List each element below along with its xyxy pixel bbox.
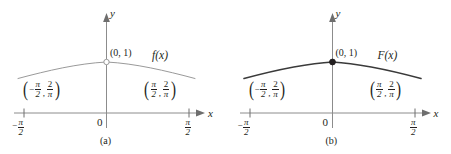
paren-open: ( [369,82,374,97]
y-axis-label: y [336,8,341,19]
tick-label-right: π 2 [184,118,192,137]
x-axis-arrowhead [422,110,431,117]
annotation-right-endpoint: ( π 2 , 2 π ) [143,80,177,99]
annot-right-comma: , [158,88,163,99]
figure-container: y x 0 (0, 1) f(x) − π 2 π 2 ( − [0,0,451,154]
annot-left-comma: , [42,88,47,99]
tick-label-left: − π 2 [12,118,25,137]
annot-left-y-den: π [272,89,279,99]
x-axis-label: x [434,108,439,119]
paren-close: ) [396,82,401,97]
x-axis-arrowhead [196,110,205,117]
y-axis-arrowhead [329,13,336,22]
paren-open: ( [144,82,149,97]
panel-caption-a: (a) [100,136,111,146]
y-axis-arrowhead [103,13,110,22]
curve-label-F: F(x) [378,50,398,62]
annot-right-comma: , [383,88,388,99]
tick-right-numerator: π [185,118,192,127]
tick-left-fraction: π 2 [243,118,250,137]
paren-open: ( [23,82,28,97]
annot-left-x-fraction: π 2 [35,80,42,99]
panel-b: y x 0 (0, 1) F(x) − π 2 π 2 ( − π 2 , [226,0,451,154]
panel-caption-b: (b) [326,136,338,146]
tick-right-denominator: 2 [185,127,192,137]
annot-right-y-num: 2 [163,80,170,89]
tick-right-fraction: π 2 [410,118,417,137]
tick-left-sign: − [238,118,243,130]
point-label-0-1: (0, 1) [336,48,358,58]
origin-label: 0 [97,117,103,128]
annot-left-y-fraction: 2 π [272,80,279,99]
tick-right-fraction: π 2 [185,118,192,137]
annot-right-x-num: π [151,80,158,89]
annot-right-y-den: π [163,89,170,99]
annot-left-x-den: 2 [35,89,42,99]
annot-left-comma: , [267,88,272,99]
point-label-0-1: (0, 1) [110,48,132,58]
annot-right-y-num: 2 [388,80,395,89]
tick-right-denominator: 2 [410,127,417,137]
annotation-right-endpoint: ( π 2 , 2 π ) [369,80,403,99]
annotation-left-endpoint: ( − π 2 , 2 π ) [248,80,287,99]
tick-label-left: − π 2 [238,118,251,137]
annot-left-x-sign: − [29,85,34,94]
tick-right-numerator: π [410,118,417,127]
origin-label: 0 [323,117,329,128]
annot-left-x-sign: − [255,85,260,94]
annot-right-y-fraction: 2 π [388,80,395,99]
annot-left-x-num: π [35,80,42,89]
y-axis-label: y [110,8,115,19]
annot-right-y-den: π [388,89,395,99]
x-axis-label: x [208,108,213,119]
annot-left-y-fraction: 2 π [47,80,54,99]
paren-close: ) [280,82,285,97]
annot-right-x-fraction: π 2 [151,80,158,99]
annot-left-y-num: 2 [47,80,54,89]
paren-open: ( [248,82,253,97]
annot-left-y-num: 2 [272,80,279,89]
panel-b-graphic [226,0,451,154]
curve-label-f: f(x) [152,50,168,62]
annot-right-x-den: 2 [376,89,383,99]
annot-right-x-den: 2 [151,89,158,99]
paren-close: ) [171,82,176,97]
tick-left-numerator: π [18,118,25,127]
annot-right-y-fraction: 2 π [163,80,170,99]
annot-left-x-fraction: π 2 [260,80,267,99]
tick-left-denominator: 2 [243,127,250,137]
tick-left-numerator: π [243,118,250,127]
tick-left-sign: − [12,118,17,130]
annot-left-y-den: π [47,89,54,99]
annotation-left-endpoint: ( − π 2 , 2 π ) [22,80,61,99]
paren-close: ) [55,82,60,97]
tick-left-denominator: 2 [18,127,25,137]
panel-a-graphic [0,0,226,154]
annot-left-x-num: π [260,80,267,89]
point-marker-open-circle [104,59,109,64]
annot-left-x-den: 2 [260,89,267,99]
panel-a: y x 0 (0, 1) f(x) − π 2 π 2 ( − [0,0,226,154]
annot-right-x-fraction: π 2 [376,80,383,99]
tick-label-right: π 2 [410,118,418,137]
annot-right-x-num: π [376,80,383,89]
tick-left-fraction: π 2 [18,118,25,137]
point-marker-filled-dot [329,59,335,65]
